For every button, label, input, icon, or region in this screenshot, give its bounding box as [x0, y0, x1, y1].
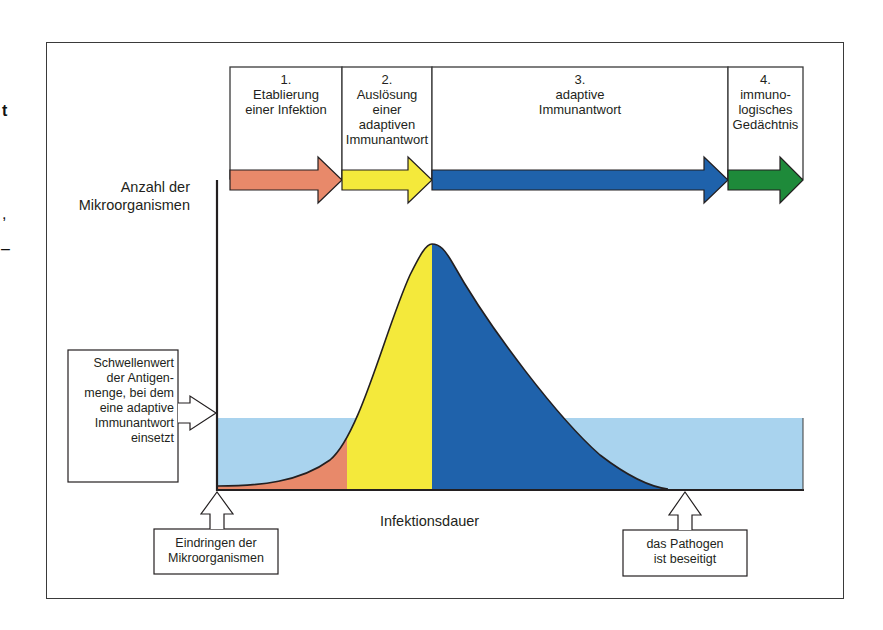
invasion-pointer-arrow-icon [201, 492, 233, 529]
y-axis-label: Anzahl der Mikroorganismen [60, 178, 190, 214]
phase-1-label: 1. Etablierung einer Infektion [230, 72, 342, 117]
phase-4-label: 4. immuno- logisches Gedächtnis [728, 72, 803, 132]
x-axis-label: Infektionsdauer [380, 512, 479, 530]
phase-3-label: 3. adaptive Immunantwort [432, 72, 728, 117]
cleared-pointer-arrow-icon [669, 492, 701, 530]
threshold-callout-text: Schwellenwert der Antigen- menge, bei de… [70, 356, 174, 446]
phase-2-label: 2. Auslösung einer adaptiven Immunantwor… [342, 72, 432, 147]
cleared-callout-text: das Pathogen ist beseitigt [623, 537, 747, 567]
invasion-callout-text: Eindringen der Mikroorganismen [154, 536, 278, 566]
phase2-area [347, 230, 432, 492]
threshold-pointer-arrow-icon [178, 396, 216, 430]
